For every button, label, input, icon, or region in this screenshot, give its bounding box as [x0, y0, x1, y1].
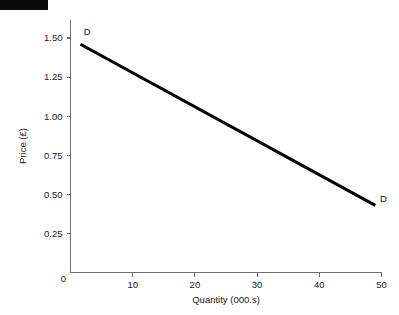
chart-figure: 0.250.500.751.001.251.50 1020304050 0 DD… [0, 0, 399, 315]
x-tick-label: 40 [314, 279, 325, 290]
y-tick-label: 1.00 [44, 111, 63, 122]
x-tick-label: 10 [127, 279, 138, 290]
curve-annotations: DD [84, 26, 387, 204]
y-tick-label: 1.50 [44, 32, 63, 43]
y-axis-title: Price (£) [17, 128, 28, 164]
demand-curve-line [80, 44, 375, 205]
x-axis-title: Quantity (000.s) [192, 294, 260, 305]
x-tick-labels: 1020304050 [127, 279, 386, 290]
x-tick-marks [133, 273, 382, 277]
x-tick-label: 20 [190, 279, 201, 290]
y-tick-label: 0.75 [44, 150, 63, 161]
x-tick-label: 50 [376, 279, 387, 290]
demand-curve-chart: 0.250.500.751.001.251.50 1020304050 0 DD… [0, 0, 399, 315]
demand-label-bottom: D [380, 193, 387, 204]
y-tick-marks [67, 38, 71, 233]
x-tick-label: 30 [252, 279, 263, 290]
demand-label-top: D [84, 26, 91, 37]
y-tick-labels: 0.250.500.751.001.251.50 [44, 32, 63, 238]
demand-curve-series [80, 44, 375, 205]
y-tick-label: 0.25 [44, 228, 63, 239]
y-tick-label: 0.50 [44, 189, 63, 200]
y-tick-label: 1.25 [44, 71, 63, 82]
origin-tick-label: 0 [61, 273, 66, 284]
